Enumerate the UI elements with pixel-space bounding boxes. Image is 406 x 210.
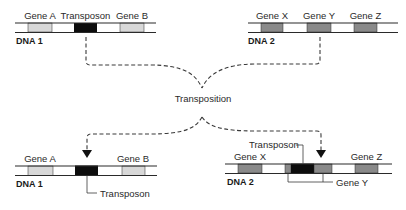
gene-z-box (355, 164, 378, 173)
gene-y-fragment-right (314, 164, 332, 173)
transposon-box (291, 164, 314, 174)
gene-a-box (28, 23, 52, 32)
transposon-label: Transposon (100, 188, 150, 199)
arrow-down-icon (82, 150, 92, 158)
dna1-after: Gene A Gene B DNA 1 Transposon (15, 153, 157, 199)
gene-y-bracket-line (288, 174, 333, 183)
gene-b-label: Gene B (117, 153, 149, 164)
gene-z-box (354, 23, 377, 32)
transposon-box (75, 166, 98, 177)
gene-b-box (122, 166, 145, 176)
gene-y-label: Gene Y (336, 177, 369, 188)
arrow-down-icon (316, 150, 326, 158)
gene-y-fragment-left (285, 164, 291, 173)
dna2-before: Gene X Gene Y Gene Z DNA 2 (248, 10, 398, 46)
transposon-box (74, 23, 97, 32)
dna2-label: DNA 2 (227, 177, 254, 187)
gene-x-box (261, 23, 283, 32)
gene-a-label: Gene A (24, 153, 56, 164)
dna2-after: Gene X Gene Z DNA 2 Transposon Gene Y (225, 139, 392, 188)
transposon-label: Transposon (249, 139, 299, 150)
dna1-label: DNA 1 (16, 179, 43, 189)
gene-y-label: Gene Y (303, 10, 336, 21)
gene-x-label: Gene X (256, 10, 289, 21)
gene-y-box (307, 23, 331, 32)
dna1-label: DNA 1 (16, 36, 43, 46)
gene-x-box (238, 164, 262, 173)
transposition-diagram: Gene A Transposon Gene B DNA 1 Gene X Ge… (0, 0, 406, 210)
gene-b-label: Gene B (116, 10, 148, 21)
transposon-label: Transposon (61, 10, 111, 21)
gene-b-box (120, 23, 144, 32)
path-crossing-to-dna1 (87, 117, 202, 150)
gene-z-label: Gene Z (351, 151, 383, 162)
transposon-leader-line (87, 176, 97, 193)
gene-a-box (28, 166, 53, 176)
transposition-label: Transposition (175, 93, 232, 104)
gene-a-label: Gene A (24, 10, 56, 21)
gene-z-label: Gene Z (350, 10, 382, 21)
path-dna1-to-crossing (86, 37, 202, 88)
gene-x-label: Gene X (234, 151, 267, 162)
dna2-label: DNA 2 (248, 36, 275, 46)
